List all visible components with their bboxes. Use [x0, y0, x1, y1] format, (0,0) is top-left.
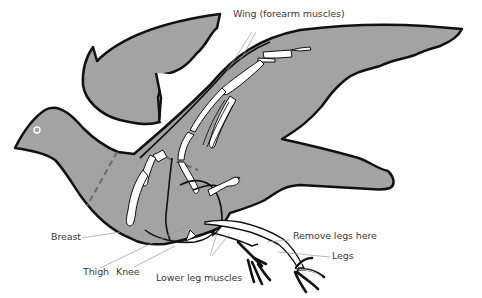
label-lower-leg-muscles: Lower leg muscles [156, 273, 242, 283]
label-remove-legs: Remove legs here [293, 231, 377, 241]
back-foot [238, 242, 270, 284]
label-legs: Legs [332, 251, 354, 261]
pigeon-anatomy-diagram: Wing (forearm muscles) Breast Thigh Knee… [0, 0, 482, 298]
label-thigh: Thigh [83, 267, 109, 277]
bird-body [15, 25, 462, 245]
label-breast: Breast [51, 232, 81, 242]
label-wing: Wing (forearm muscles) [233, 9, 345, 19]
label-knee: Knee [116, 267, 140, 277]
pigeon-illustration [0, 0, 482, 298]
